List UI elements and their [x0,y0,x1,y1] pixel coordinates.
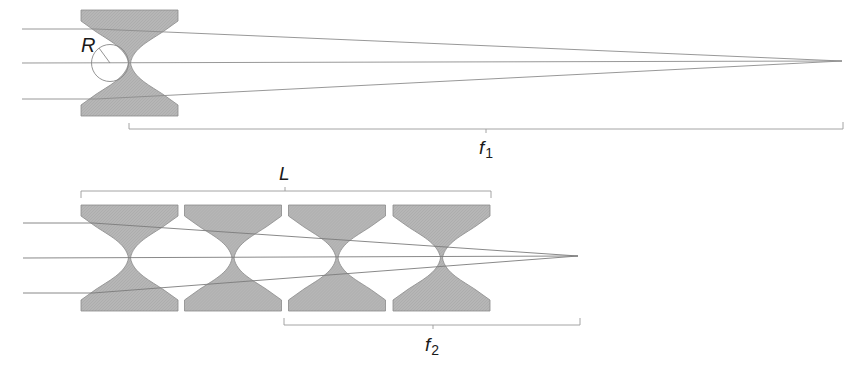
f1-subscript: 1 [485,145,493,161]
length-bracket-L [81,187,491,198]
f2-subscript: 2 [431,342,439,358]
top-panel [22,10,843,133]
focal-length-label-f2: f2 [425,335,439,357]
bottom-panel [23,187,580,329]
stack-lens-4 [393,205,490,311]
f1-symbol: f [479,137,484,158]
f2-symbol: f [425,334,430,355]
ray-axis [22,61,842,63]
focal-length-label-f1: f1 [479,138,493,160]
radius-label: R [81,35,95,55]
focal-length-bracket-f2 [284,318,580,329]
length-label: L [279,164,290,183]
ray-axis [23,256,578,258]
stack-lens-2 [185,205,282,311]
lens-diagram [0,0,860,367]
focal-length-bracket-f1 [129,122,843,133]
stack-lens-3 [289,205,386,311]
